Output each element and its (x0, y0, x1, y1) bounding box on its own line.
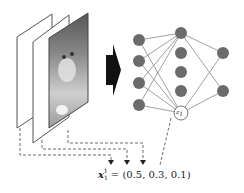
process-arrow-icon (106, 44, 121, 96)
formula-subscript: 1 (104, 174, 108, 181)
node-label-sub: 1 (179, 110, 183, 117)
input-layer-nodes (133, 34, 145, 111)
diagram-canvas: z1 x11 = (0.5, 0.3, 0.1) (0, 0, 244, 193)
diagram-graphics (0, 0, 244, 193)
formula-values: (0.5, 0.3, 0.1) (122, 169, 190, 180)
output-layer-nodes (217, 47, 229, 97)
formula-superscript: 1 (104, 167, 108, 174)
down-arrowheads (108, 160, 146, 165)
pixel-vector-formula: x11 = (0.5, 0.3, 0.1) (98, 167, 191, 181)
highlighted-node-label: z1 (176, 108, 183, 117)
formula-equals: = (111, 169, 119, 180)
